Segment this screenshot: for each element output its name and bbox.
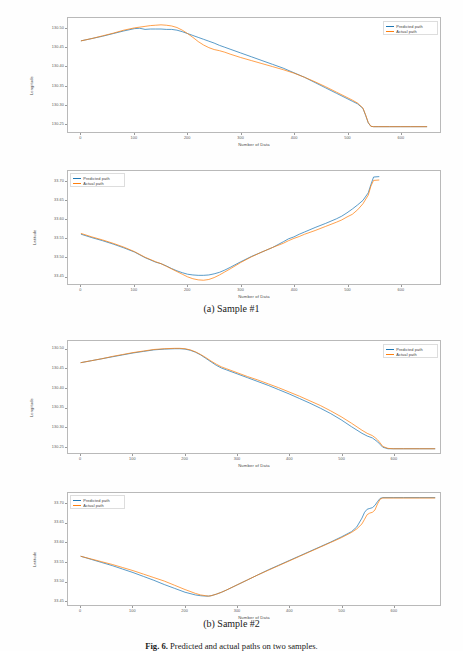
y-tick-mark — [65, 368, 67, 369]
x-tick-label: 100 — [122, 457, 142, 461]
x-tick-label: 600 — [384, 457, 404, 461]
legend-sample1-latitude[interactable]: Predicted path Actual path — [70, 173, 125, 187]
panel-sample-1: Longitude 130.50130.45130.40130.35130.30… — [0, 0, 463, 320]
x-tick-mark — [348, 133, 349, 135]
y-axis-label-longitude-2: Longitude — [29, 398, 34, 417]
x-tick-mark — [134, 285, 135, 287]
x-tick-mark — [237, 606, 238, 608]
legend-sample1-longitude[interactable]: Predicted path Actual path — [383, 21, 438, 35]
y-tick-label: 33.45 — [41, 599, 64, 603]
x-tick-label: 500 — [332, 609, 352, 613]
y-tick-label: 33.50 — [41, 579, 64, 583]
y-tick-mark — [65, 523, 67, 524]
x-tick-label: 500 — [338, 136, 358, 140]
x-tick-mark — [134, 133, 135, 135]
figure-caption-text: Predicted and actual paths on two sample… — [170, 641, 318, 651]
y-tick-label: 130.45 — [41, 45, 64, 49]
y-tick-mark — [65, 86, 67, 87]
y-tick-label: 130.40 — [41, 386, 64, 390]
series-line — [81, 177, 379, 276]
x-tick-mark — [80, 133, 81, 135]
y-tick-mark — [65, 582, 67, 583]
x-tick-mark — [401, 285, 402, 287]
figure-caption-label: Fig. 6. — [145, 641, 168, 651]
y-tick-label: 130.25 — [41, 122, 64, 126]
y-tick-label: 130.45 — [41, 366, 64, 370]
x-tick-label: 600 — [391, 136, 411, 140]
y-tick-label: 130.35 — [41, 405, 64, 409]
subcaption-a: (a) Sample #1 — [0, 303, 463, 314]
x-tick-label: 400 — [284, 136, 304, 140]
x-tick-mark — [401, 133, 402, 135]
x-tick-label: 300 — [231, 288, 251, 292]
x-axis-label-1: Number of Data — [67, 142, 441, 147]
x-tick-mark — [241, 133, 242, 135]
legend-item-actual[interactable]: Actual path — [73, 503, 121, 508]
x-tick-label: 300 — [231, 136, 251, 140]
y-tick-label: 33.55 — [41, 560, 64, 564]
x-tick-label: 600 — [384, 609, 404, 613]
legend-sample2-longitude[interactable]: Predicted path Actual path — [383, 344, 438, 358]
legend-item-actual[interactable]: Actual path — [386, 352, 434, 357]
y-tick-mark — [65, 66, 67, 67]
y-tick-label: 130.25 — [41, 445, 64, 449]
y-tick-label: 130.30 — [41, 425, 64, 429]
chart-sample1-latitude: Latitude 33.7033.6533.6033.5533.5033.45 … — [0, 155, 463, 303]
legend-item-actual[interactable]: Actual path — [73, 181, 121, 186]
x-tick-mark — [342, 454, 343, 456]
chart-sample2-latitude: Latitude 33.7033.6533.6033.5533.5033.45 … — [0, 477, 463, 625]
x-tick-label: 100 — [122, 609, 142, 613]
plot-lines-sample1-longitude — [68, 18, 440, 132]
x-tick-label: 100 — [124, 136, 144, 140]
legend-item-actual[interactable]: Actual path — [386, 29, 434, 34]
y-axis-label-latitude-2: Latitude — [32, 552, 37, 567]
y-tick-mark — [65, 257, 67, 258]
x-tick-label: 0 — [70, 609, 90, 613]
y-tick-mark — [65, 447, 67, 448]
y-tick-mark — [65, 503, 67, 504]
x-tick-label: 100 — [124, 288, 144, 292]
x-tick-mark — [241, 285, 242, 287]
y-tick-mark — [65, 601, 67, 602]
x-tick-mark — [185, 606, 186, 608]
x-tick-label: 400 — [284, 288, 304, 292]
legend-label-actual: Actual path — [83, 181, 104, 186]
y-tick-mark — [65, 181, 67, 182]
plot-area-sample2-latitude — [67, 492, 441, 606]
y-tick-label: 33.45 — [41, 274, 64, 278]
y-tick-mark — [65, 28, 67, 29]
x-tick-mark — [80, 285, 81, 287]
legend-sample2-latitude[interactable]: Predicted path Actual path — [70, 495, 125, 509]
legend-label-actual: Actual path — [83, 503, 104, 508]
y-tick-mark — [65, 349, 67, 350]
x-tick-mark — [132, 606, 133, 608]
legend-line-actual-icon — [386, 354, 394, 355]
x-tick-label: 300 — [227, 609, 247, 613]
x-tick-label: 600 — [391, 288, 411, 292]
legend-line-predicted-icon — [73, 178, 81, 179]
x-tick-label: 200 — [175, 457, 195, 461]
series-line — [81, 25, 426, 127]
y-tick-label: 33.65 — [41, 198, 64, 202]
x-tick-mark — [342, 606, 343, 608]
subcaption-b: (b) Sample #2 — [0, 618, 463, 629]
series-line — [81, 498, 435, 596]
x-tick-mark — [294, 133, 295, 135]
x-axis-label-3: Number of Data — [67, 463, 441, 468]
y-tick-label: 130.50 — [41, 346, 64, 350]
y-tick-label: 130.35 — [41, 84, 64, 88]
y-tick-label: 33.60 — [41, 217, 64, 221]
x-tick-label: 200 — [175, 609, 195, 613]
x-tick-mark — [80, 606, 81, 608]
y-tick-mark — [65, 238, 67, 239]
series-line — [81, 348, 435, 448]
y-tick-label: 33.70 — [41, 179, 64, 183]
x-tick-mark — [348, 285, 349, 287]
x-tick-mark — [185, 454, 186, 456]
series-line — [81, 498, 435, 596]
x-tick-mark — [289, 454, 290, 456]
x-tick-mark — [294, 285, 295, 287]
chart-sample1-longitude: Longitude 130.50130.45130.40130.35130.30… — [0, 0, 463, 150]
y-tick-mark — [65, 542, 67, 543]
panel-sample-2: Longitude 130.50130.45130.40130.35130.30… — [0, 325, 463, 635]
